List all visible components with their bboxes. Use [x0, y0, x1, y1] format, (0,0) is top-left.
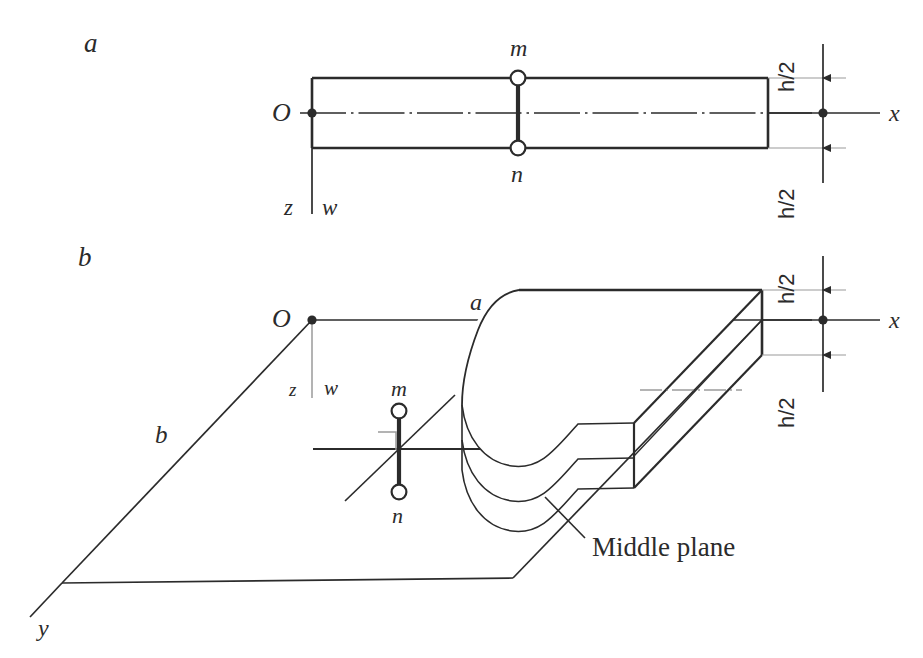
plate-theory-figure: a O x z w m n h/2 h/2 b O x y z w a b m … — [0, 0, 923, 658]
panel-b-origin-dot — [307, 315, 316, 324]
panel-a-dim-top-label: h/2 — [776, 61, 798, 92]
panel-b-y-axis-label: y — [38, 616, 49, 640]
middle-plane-label: Middle plane — [592, 534, 735, 561]
panel-b-z-axis-label: z — [289, 380, 296, 399]
panel-a-point-m-label: m — [510, 36, 527, 60]
panel-b-y-axis — [30, 583, 62, 617]
panel-b-dim-bottom-label: h/2 — [776, 397, 798, 428]
panel-b-dim-top-label: h/2 — [776, 273, 798, 304]
panel-a-label: a — [84, 30, 98, 57]
plate-solid-3d — [462, 290, 762, 531]
panel-a-z-axis-label: z — [284, 196, 293, 219]
panel-b-point-n-label: n — [392, 505, 403, 527]
panel-a-origin-label: O — [272, 100, 291, 126]
panel-a-origin-dot — [307, 108, 316, 117]
panel-a-point-n-label: n — [511, 162, 523, 186]
panel-b-side-a-label: a — [470, 290, 482, 314]
panel-b-x-axis-label: x — [889, 308, 900, 332]
panel-b-w-label: w — [324, 378, 338, 399]
figure-drawing — [0, 0, 923, 658]
panel-b-point-m-label: m — [391, 378, 407, 400]
panel-b-x-axis-dot — [818, 315, 827, 324]
panel-b-mn-detail — [313, 395, 480, 501]
panel-b-origin-label: O — [272, 306, 291, 332]
panel-a-dim-bottom-label: h/2 — [776, 188, 798, 219]
panel-a-x-axis-dot — [818, 108, 827, 117]
panel-b-label: b — [78, 244, 92, 271]
panel-a-x-axis-label: x — [889, 101, 900, 125]
panel-a-w-label: w — [322, 196, 337, 219]
panel-b-side-b-label: b — [155, 422, 168, 447]
